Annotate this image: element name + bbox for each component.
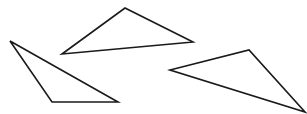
triangle-top	[62, 8, 193, 54]
diagram-canvas	[0, 0, 307, 114]
triangle-right	[170, 50, 305, 112]
triangles-figure	[0, 0, 307, 114]
